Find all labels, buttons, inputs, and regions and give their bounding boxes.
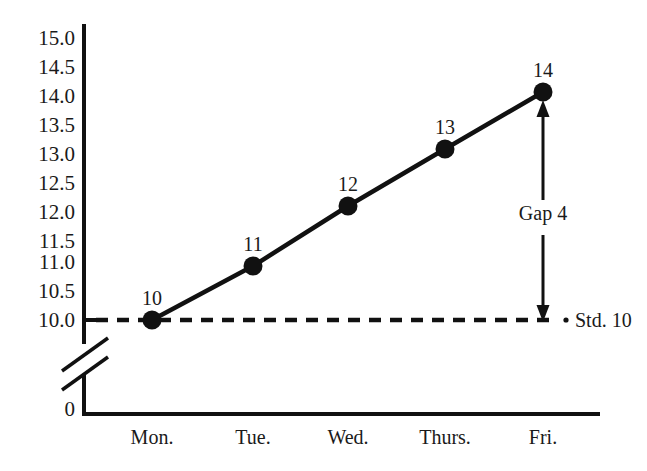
y-tick-label: 11.0 — [39, 252, 75, 273]
gap-arrow-upper-icon — [537, 100, 550, 200]
data-point-marker — [436, 140, 455, 159]
y-tick-label: 13.5 — [38, 115, 75, 136]
data-point-label: 11 — [243, 234, 262, 254]
data-point-marker — [143, 311, 162, 330]
data-point-label: 13 — [435, 117, 455, 137]
line-chart: 15.0 14.5 14.0 13.5 13.0 12.5 12.0 11.5 … — [0, 0, 647, 471]
data-point-label: 14 — [533, 60, 553, 80]
y-tick-label: 13.0 — [38, 144, 75, 165]
std-label-dot-icon — [563, 317, 568, 322]
y-tick-label: 11.5 — [39, 231, 75, 252]
data-point-marker — [534, 83, 553, 102]
y-tick-label: 15.0 — [38, 28, 75, 49]
x-category-label: Tue. — [235, 427, 270, 447]
y-tick-label: 14.5 — [38, 57, 75, 78]
data-point-marker — [244, 257, 263, 276]
gap-annotation-label: Gap 4 — [519, 203, 567, 223]
data-point-label: 12 — [338, 174, 358, 194]
x-category-label: Wed. — [327, 427, 368, 447]
y-tick-label: 10.0 — [38, 310, 75, 331]
std-annotation-label: Std. 10 — [575, 310, 632, 330]
y-tick-label: 14.0 — [38, 86, 75, 107]
y-tick-label: 12.0 — [38, 202, 75, 223]
data-point-marker — [339, 197, 358, 216]
x-category-label: Mon. — [131, 427, 174, 447]
y-tick-label: 10.5 — [38, 281, 75, 302]
data-point-label: 10 — [142, 288, 162, 308]
x-category-label: Thurs. — [419, 427, 471, 447]
gap-arrow-lower-icon — [537, 235, 550, 322]
y-tick-label: 12.5 — [38, 173, 75, 194]
y-tick-label-zero: 0 — [65, 399, 76, 420]
x-category-label: Fri. — [529, 427, 557, 447]
